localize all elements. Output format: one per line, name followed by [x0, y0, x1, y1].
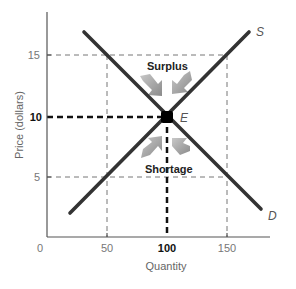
- y-axis-label: Price (dollars): [13, 91, 25, 159]
- x-axis-label: Quantity: [146, 260, 187, 272]
- shortage-label: Shortage: [145, 163, 193, 175]
- supply-demand-chart: S D E Surplus Shortage 15 10 5 0 50 100 …: [0, 0, 296, 289]
- y-tick-15: 15: [28, 49, 40, 61]
- equilibrium-point: [161, 111, 173, 123]
- surplus-arrows: [140, 71, 192, 96]
- demand-label: D: [268, 209, 277, 223]
- shortage-arrows: [141, 136, 190, 158]
- x-tick-0: 0: [37, 242, 43, 254]
- equilibrium-label: E: [180, 111, 189, 125]
- supply-label: S: [256, 25, 264, 39]
- y-tick-5: 5: [34, 171, 40, 183]
- x-tick-100: 100: [158, 242, 176, 254]
- arrow-icon-shortage-right: [172, 138, 190, 155]
- y-tick-10: 10: [30, 111, 42, 123]
- surplus-label: Surplus: [147, 60, 188, 72]
- x-tick-50: 50: [101, 242, 113, 254]
- x-tick-150: 150: [218, 242, 236, 254]
